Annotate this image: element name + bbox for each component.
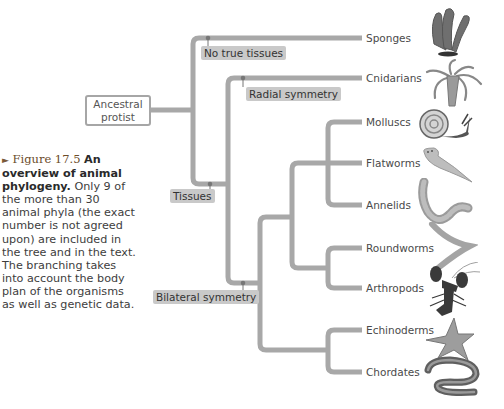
taxon-roundworms: Roundworms	[366, 242, 434, 254]
node-label-tissues: Tissues	[170, 189, 215, 203]
node-label-radial-symmetry: Radial symmetry	[246, 87, 341, 101]
taxon-annelids: Annelids	[366, 199, 411, 211]
taxon-sponges: Sponges	[366, 32, 411, 44]
taxon-cnidarians: Cnidarians	[366, 72, 422, 84]
taxon-arthropods: Arthropods	[366, 282, 424, 294]
lobster-icon	[422, 262, 482, 320]
eel-icon	[420, 354, 484, 398]
figure-body: Only 9 of the more than 30 animal phyla …	[2, 180, 136, 311]
node-label-bilateral-symmetry: Bilateral symmetry	[153, 290, 259, 304]
figure-number: Figure 17.5	[12, 152, 80, 166]
snail-icon	[416, 106, 476, 140]
ancestral-protist-box: Ancestral protist	[85, 95, 151, 126]
cnidarian-icon	[425, 58, 489, 108]
taxon-chordates: Chordates	[366, 366, 420, 378]
figure-caption: ► Figure 17.5 An overview of animal phyl…	[2, 153, 137, 311]
arrow-icon: ►	[2, 155, 9, 165]
ancestral-protist-label: Ancestral protist	[87, 98, 149, 124]
node-label-no-true-tissues: No true tissues	[201, 46, 286, 60]
taxon-flatworms: Flatworms	[366, 157, 420, 169]
taxon-molluscs: Molluscs	[366, 116, 411, 128]
earthworm-icon	[418, 178, 478, 228]
sponge-icon	[420, 4, 480, 60]
